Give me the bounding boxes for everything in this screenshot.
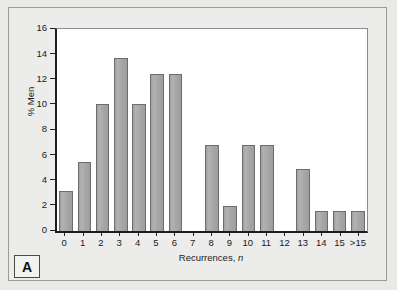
x-axis-tick-label: 2 — [98, 238, 103, 248]
bar-slot — [331, 29, 349, 231]
bar-slot — [276, 29, 294, 231]
x-axis-tick-mark — [156, 232, 157, 236]
x-axis-tick-label: 9 — [227, 238, 232, 248]
bar-slot — [203, 29, 221, 231]
x-axis-tick-mark — [284, 232, 285, 236]
x-axis-tick-mark — [358, 232, 359, 236]
x-axis-tick-label: 11 — [261, 238, 271, 248]
x-axis-tick-mark — [321, 232, 322, 236]
bar-slot — [148, 29, 166, 231]
bar — [150, 74, 164, 231]
bar-slot — [166, 29, 184, 231]
x-axis-label-variable: n — [238, 252, 243, 263]
bar — [260, 145, 274, 231]
x-axis-tick-label: 7 — [190, 238, 195, 248]
x-axis-tick-label: 12 — [279, 238, 290, 248]
bar-slot — [130, 29, 148, 231]
y-axis-tick-label: 8 — [42, 124, 50, 134]
y-axis-label: % Men — [25, 72, 36, 132]
bar-slot — [239, 29, 257, 231]
y-axis-tick-label: 12 — [36, 73, 50, 83]
bar — [114, 58, 128, 231]
x-axis-label: Recurrences, n — [55, 252, 367, 263]
x-axis-tick-mark — [211, 232, 212, 236]
bar-slot — [349, 29, 367, 231]
bar — [296, 169, 310, 231]
y-axis-tick-label: 6 — [42, 149, 50, 159]
x-axis-tick-mark — [138, 232, 139, 236]
bar-slot — [185, 29, 203, 231]
bar-slot — [93, 29, 111, 231]
bar — [169, 74, 183, 231]
x-axis-tick-label: 0 — [62, 238, 67, 248]
bar — [242, 145, 256, 231]
bar-slot — [294, 29, 312, 231]
y-axis-tick-label: 14 — [36, 48, 50, 58]
x-axis-tick-label: 4 — [135, 238, 140, 248]
x-axis-label-text: Recurrences, — [179, 252, 238, 263]
bar — [78, 162, 92, 231]
x-axis-tick-label: 15 — [334, 238, 345, 248]
x-axis-tick-label: 5 — [153, 238, 158, 248]
bar — [96, 104, 110, 232]
x-axis-tick-mark — [174, 232, 175, 236]
bar — [59, 191, 73, 231]
plot-area — [55, 28, 368, 233]
y-axis-tick-label: 16 — [36, 23, 50, 33]
x-axis-tick-mark — [266, 232, 267, 236]
bar — [333, 211, 347, 231]
x-axis-tick-mark — [303, 232, 304, 236]
x-axis-tick-mark — [340, 232, 341, 236]
x-axis-tick-mark — [101, 232, 102, 236]
x-axis-tick-mark — [229, 232, 230, 236]
x-axis-tick-mark — [119, 232, 120, 236]
bar-slot — [57, 29, 75, 231]
bar-slot — [258, 29, 276, 231]
figure-panel: 0246810121416 % Men 01234567891011121314… — [0, 0, 397, 290]
y-axis-tick-label: 2 — [42, 200, 50, 210]
bar-slot — [112, 29, 130, 231]
bar-slot — [221, 29, 239, 231]
x-axis-tick-label: 10 — [242, 238, 253, 248]
bar — [132, 104, 146, 232]
x-axis-tick-label: 3 — [117, 238, 122, 248]
bar-series — [57, 29, 367, 231]
bar — [205, 145, 219, 231]
x-axis-tick-mark — [248, 232, 249, 236]
x-axis-tick-mark — [64, 232, 65, 236]
x-axis-tick-mark — [193, 232, 194, 236]
x-axis-tick-label: 1 — [80, 238, 85, 248]
x-axis-tick-mark — [83, 232, 84, 236]
bar — [315, 211, 329, 231]
bar-slot — [75, 29, 93, 231]
x-axis-tick-label: 13 — [298, 238, 309, 248]
y-axis-tick-label: 0 — [42, 225, 50, 235]
bar — [351, 211, 365, 231]
bar — [223, 206, 237, 231]
x-axis-tick-label: 6 — [172, 238, 177, 248]
x-axis-tick-label: >15 — [350, 238, 366, 248]
bar-slot — [312, 29, 330, 231]
x-axis-tick-label: 8 — [208, 238, 213, 248]
x-axis-tick-label: 14 — [316, 238, 327, 248]
panel-letter: A — [14, 255, 40, 278]
y-axis-tick-label: 4 — [42, 174, 50, 184]
y-axis-tick-label: 10 — [36, 99, 50, 109]
